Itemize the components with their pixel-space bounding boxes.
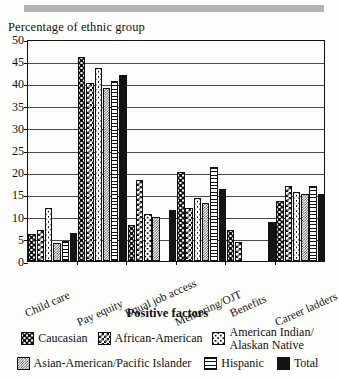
bar xyxy=(53,243,60,261)
bar xyxy=(227,230,234,261)
swatch-african-american-icon xyxy=(98,332,111,345)
y-axis-title: Percentage of ethnic group xyxy=(8,20,145,35)
bar-group xyxy=(177,41,227,261)
bar xyxy=(136,180,143,261)
bar-group xyxy=(276,41,326,261)
bar-group xyxy=(78,41,128,261)
bar-groups xyxy=(28,41,324,261)
legend-label: Caucasian xyxy=(38,332,87,345)
chart-legend: Positive factors Caucasian African-Ameri… xyxy=(0,306,335,370)
bar-group xyxy=(28,41,78,261)
legend-item-african-american: African-American xyxy=(98,332,203,345)
y-axis-tick-label: 40 xyxy=(12,79,24,91)
bar xyxy=(185,208,192,261)
y-axis-tick-label: 15 xyxy=(12,190,24,202)
y-axis-tick-label: 10 xyxy=(12,212,24,224)
bar xyxy=(119,75,126,261)
bar-group xyxy=(226,41,276,261)
bar xyxy=(309,186,316,261)
swatch-caucasian-icon xyxy=(21,332,34,345)
swatch-american-indian-icon xyxy=(212,332,225,345)
bar xyxy=(194,198,201,261)
bar xyxy=(86,83,93,261)
chart-plot-area: 05101520253035404550 Child carePay equit… xyxy=(0,36,335,268)
bar xyxy=(219,189,226,261)
bar xyxy=(202,203,209,261)
y-axis-tick-label: 20 xyxy=(12,168,24,180)
y-axis-tick-label: 30 xyxy=(12,123,24,135)
y-axis-tick-label: 35 xyxy=(12,101,24,113)
bar xyxy=(301,194,308,261)
bar xyxy=(128,225,135,261)
bar xyxy=(62,241,69,261)
legend-item-asian-american: Asian-American/Pacific Islander xyxy=(17,357,192,370)
bar xyxy=(28,234,35,261)
swatch-hispanic-icon xyxy=(204,357,217,370)
legend-title: Positive factors xyxy=(0,306,335,321)
bar xyxy=(144,214,151,261)
bar xyxy=(37,230,44,261)
bar xyxy=(285,186,292,261)
bar xyxy=(318,194,325,261)
y-axis-tick-mark xyxy=(24,263,28,264)
bar xyxy=(103,88,110,261)
swatch-total-icon xyxy=(277,357,290,370)
legend-item-caucasian: Caucasian xyxy=(21,332,87,345)
bar xyxy=(169,210,176,261)
legend-label: American Indian/Alaskan Native xyxy=(229,326,313,351)
legend-row-1: Caucasian African-American American Indi… xyxy=(0,326,335,351)
bar-group xyxy=(127,41,177,261)
legend-label: Asian-American/Pacific Islander xyxy=(34,357,192,370)
swatch-asian-american-icon xyxy=(17,357,30,370)
bar xyxy=(210,167,217,261)
legend-label: Hispanic xyxy=(221,357,264,370)
y-axis-tick-label: 50 xyxy=(12,34,24,46)
bar xyxy=(293,192,300,261)
bar xyxy=(152,217,159,261)
bar xyxy=(95,68,102,261)
page-header-rule xyxy=(24,5,324,12)
plot-frame: 05101520253035404550 xyxy=(27,40,325,262)
bar xyxy=(235,242,242,261)
bar xyxy=(111,81,118,261)
bar xyxy=(78,57,85,261)
bar xyxy=(45,208,52,261)
legend-row-2: Asian-American/Pacific Islander Hispanic… xyxy=(0,357,335,370)
legend-label: Total xyxy=(294,357,319,370)
y-axis-tick-label: 45 xyxy=(12,57,24,69)
legend-item-hispanic: Hispanic xyxy=(204,357,264,370)
legend-label: African-American xyxy=(115,332,203,345)
bar xyxy=(268,222,275,261)
bar xyxy=(70,233,77,261)
y-axis-tick-label: 25 xyxy=(12,145,24,157)
bar xyxy=(276,201,283,261)
legend-item-american-indian: American Indian/Alaskan Native xyxy=(212,326,313,351)
legend-item-total: Total xyxy=(277,357,319,370)
bar xyxy=(177,172,184,261)
